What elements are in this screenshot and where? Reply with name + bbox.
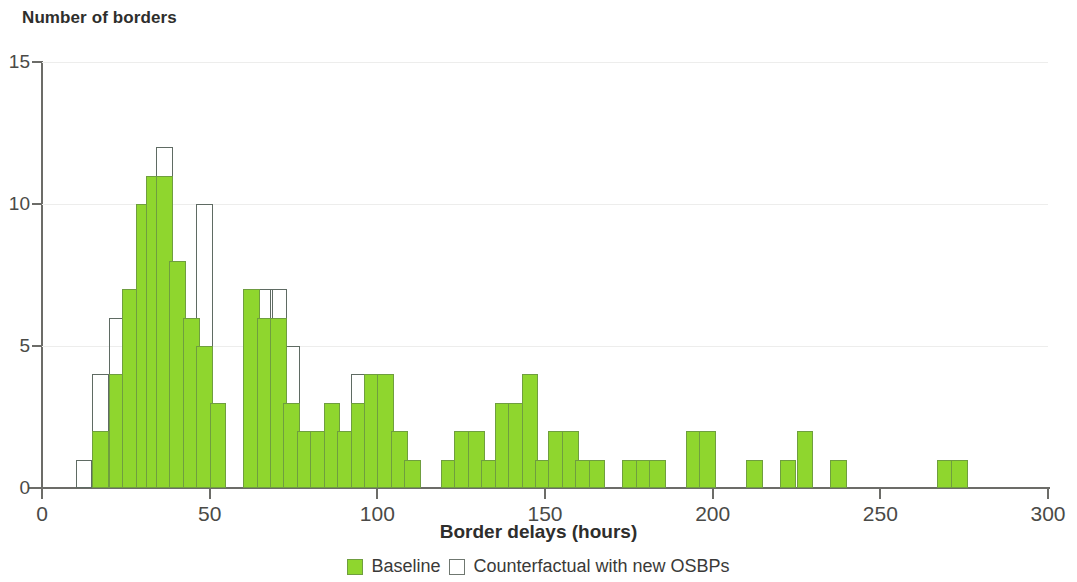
bar-baseline — [951, 460, 968, 488]
x-tick-mark — [41, 488, 43, 499]
chart-legend: BaselineCounterfactual with new OSBPs — [0, 556, 1077, 577]
plot-area: 051015 050100150200250300 — [42, 62, 1048, 488]
legend-item[interactable]: Counterfactual with new OSBPs — [449, 556, 729, 577]
y-tick-mark — [32, 345, 42, 347]
gridline — [42, 62, 1048, 63]
x-tick-mark — [1047, 488, 1049, 499]
bar-baseline — [699, 431, 716, 488]
legend-swatch-icon — [347, 559, 363, 575]
x-tick-mark — [712, 488, 714, 499]
x-tick-mark — [376, 488, 378, 499]
x-tick-mark — [879, 488, 881, 499]
legend-item[interactable]: Baseline — [347, 556, 440, 577]
bar-baseline — [589, 460, 606, 488]
bar-baseline — [746, 460, 763, 488]
legend-label: Counterfactual with new OSBPs — [473, 556, 729, 577]
y-axis-line — [41, 61, 43, 489]
y-tick-mark — [32, 203, 42, 205]
legend-label: Baseline — [371, 556, 440, 577]
y-tick-label: 0 — [19, 477, 30, 499]
x-axis-title: Border delays (hours) — [0, 521, 1077, 543]
bar-baseline — [830, 460, 847, 488]
bar-baseline — [92, 431, 109, 488]
y-tick-label: 10 — [9, 193, 30, 215]
bar-baseline — [780, 460, 797, 488]
bar-baseline — [210, 403, 227, 488]
histogram-chart: Number of borders 051015 050100150200250… — [0, 0, 1077, 582]
bar-baseline — [649, 460, 666, 488]
y-tick-mark — [32, 61, 42, 63]
bar-counterfactual — [76, 460, 93, 488]
bar-baseline — [797, 431, 814, 488]
bar-baseline — [404, 460, 421, 488]
x-tick-mark — [544, 488, 546, 499]
y-tick-label: 15 — [9, 51, 30, 73]
y-axis-title: Number of borders — [22, 8, 177, 28]
gridline — [42, 204, 1048, 205]
y-tick-label: 5 — [19, 335, 30, 357]
x-tick-mark — [209, 488, 211, 499]
legend-swatch-icon — [449, 559, 465, 575]
